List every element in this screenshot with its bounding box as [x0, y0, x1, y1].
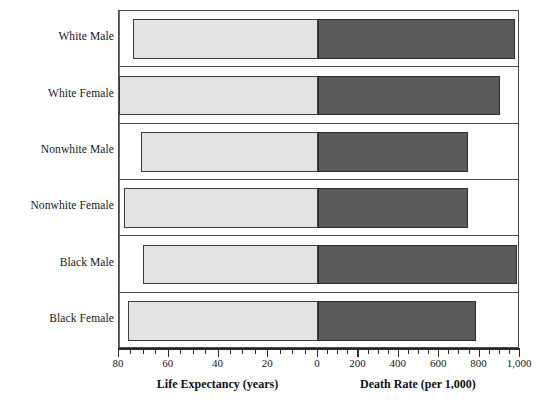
axis-tick-label: 600 [430, 357, 447, 369]
axis-tick [305, 348, 306, 354]
axis-tick [292, 348, 293, 354]
bar-life-expectancy [133, 19, 318, 58]
axis-tick [242, 348, 243, 354]
axis-tick [388, 348, 389, 354]
axis-tick [398, 348, 399, 357]
axis-tick [267, 348, 268, 357]
axis-tick-label: 800 [470, 357, 487, 369]
category-label: Nonwhite Male [4, 143, 114, 155]
axis-tick [368, 348, 369, 354]
bar-life-expectancy [128, 301, 318, 340]
axis-tick [180, 348, 181, 354]
bar-life-expectancy [124, 188, 318, 227]
axis-tick [255, 348, 256, 354]
bar-death-rate [318, 245, 517, 284]
axis-tick-label: 1,000 [507, 357, 532, 369]
axis-tick [280, 348, 281, 354]
axis-tick [143, 348, 144, 354]
axis-tick [337, 348, 338, 354]
axis-tick-label: 40 [212, 357, 223, 369]
axis-tick-label: 200 [349, 357, 366, 369]
x-axis-title-left: Life Expectancy (years) [157, 377, 278, 392]
axis-tick [347, 348, 348, 354]
bar-death-rate [318, 188, 468, 227]
axis-tick [438, 348, 439, 357]
axis-tick [519, 348, 520, 357]
bar-life-expectancy [141, 132, 318, 171]
axis-tick [458, 348, 459, 354]
axis-tick [205, 348, 206, 354]
x-axis-title-right: Death Rate (per 1,000) [360, 377, 476, 392]
axis-tick-label: 20 [262, 357, 273, 369]
axis-tick-label: 400 [390, 357, 407, 369]
axis-tick [378, 348, 379, 354]
axis-tick [118, 348, 119, 357]
category-label: Nonwhite Female [4, 199, 114, 211]
axis-tick [327, 348, 328, 354]
bar-life-expectancy [119, 76, 318, 115]
category-label: White Female [4, 87, 114, 99]
axis-tick-label: 0 [314, 357, 320, 369]
axis-tick-label: 60 [162, 357, 173, 369]
bar-death-rate [318, 76, 500, 115]
category-label-column: White MaleWhite FemaleNonwhite MaleNonwh… [0, 0, 114, 348]
bar-death-rate [318, 19, 515, 58]
bar-death-rate [318, 301, 476, 340]
axis-tick [479, 348, 480, 357]
axis-tick [428, 348, 429, 354]
axis-tick [469, 348, 470, 354]
axis-tick [357, 348, 358, 357]
axis-tick [317, 348, 318, 357]
axis-tick [230, 348, 231, 354]
category-label: White Male [4, 30, 114, 42]
axis-tick [448, 348, 449, 354]
axis-tick [499, 348, 500, 354]
category-label: Black Female [4, 312, 114, 324]
axis-tick [193, 348, 194, 354]
axis-tick [155, 348, 156, 354]
category-label: Black Male [4, 256, 114, 268]
axis-tick [218, 348, 219, 357]
axis-tick-label: 80 [113, 357, 124, 369]
axis-tick [489, 348, 490, 354]
bar-death-rate [318, 132, 468, 171]
axis-tick [509, 348, 510, 354]
axis-tick [408, 348, 409, 354]
axis-tick [130, 348, 131, 354]
chart-container: White MaleWhite FemaleNonwhite MaleNonwh… [0, 0, 538, 407]
bar-life-expectancy [143, 245, 318, 284]
axis-tick [168, 348, 169, 357]
axis-tick [418, 348, 419, 354]
plot-area [118, 10, 519, 348]
